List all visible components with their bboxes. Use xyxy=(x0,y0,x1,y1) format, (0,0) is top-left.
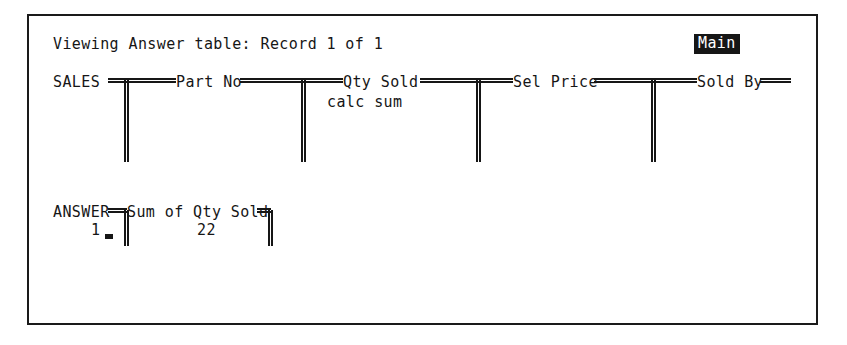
status-line: Viewing Answer table: Record 1 of 1 Main xyxy=(53,36,793,56)
sales-column-separator-1 xyxy=(124,80,129,162)
qty-sold-calc-annotation: calc sum xyxy=(327,94,402,111)
answer-column-header-sum-of-qty-sold: Sum of Qty Sold xyxy=(127,204,268,221)
sales-column-separator-3 xyxy=(476,80,481,162)
sales-column-header-part-no: Part No xyxy=(176,74,242,91)
sales-column-header-qty-sold: Qty Sold xyxy=(343,74,418,91)
sales-rule-segment-4 xyxy=(594,78,697,83)
answer-column-separator-1 xyxy=(124,210,129,246)
terminal-screen: Viewing Answer table: Record 1 of 1 Main… xyxy=(29,16,816,323)
sales-rule-segment-5 xyxy=(760,78,791,83)
answer-row-end-separator xyxy=(268,210,273,246)
sales-column-header-sold-by: Sold By xyxy=(697,74,763,91)
sales-rule-segment-1 xyxy=(108,78,176,83)
answer-record-number[interactable]: 1 xyxy=(91,222,100,239)
text-cursor xyxy=(105,234,113,239)
mode-badge: Main xyxy=(694,34,740,54)
answer-cell-sum-value[interactable]: 22 xyxy=(197,222,216,239)
status-message: Viewing Answer table: Record 1 of 1 xyxy=(53,36,383,53)
sales-rule-segment-2 xyxy=(240,78,343,83)
sales-column-header-sel-price: Sel Price xyxy=(513,74,598,91)
answer-table-name: ANSWER xyxy=(53,204,110,221)
sales-table-name: SALES xyxy=(53,74,100,91)
terminal-window: Viewing Answer table: Record 1 of 1 Main… xyxy=(27,14,818,325)
sales-column-separator-2 xyxy=(301,80,306,162)
sales-rule-segment-3 xyxy=(420,78,513,83)
sales-column-separator-4 xyxy=(651,80,656,162)
